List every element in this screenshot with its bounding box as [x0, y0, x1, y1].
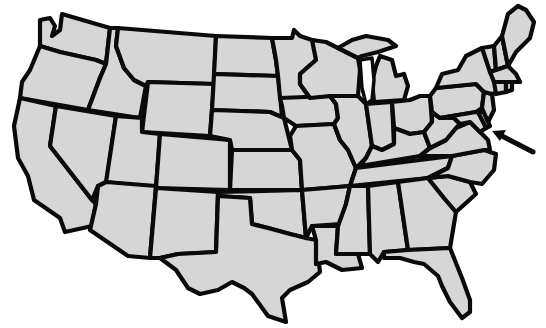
state-indiana — [366, 102, 394, 150]
state-colorado — [156, 134, 230, 190]
arrow-shaft — [500, 135, 533, 152]
state-iowa — [280, 96, 338, 126]
state-arizona — [90, 182, 156, 258]
state-montana — [116, 28, 216, 86]
state-massachusetts — [490, 66, 520, 82]
us-map-svg — [0, 0, 546, 328]
state-michigan-lower — [372, 56, 408, 102]
state-maine — [502, 6, 534, 66]
state-rhode-island — [506, 82, 512, 92]
state-new-jersey — [482, 92, 494, 122]
state-florida — [384, 248, 470, 318]
arrow-pointer — [492, 130, 533, 152]
lake-michigan — [360, 58, 374, 104]
state-kansas — [230, 150, 302, 190]
state-north-dakota — [214, 36, 278, 76]
us-map: United States outline map — [0, 0, 546, 328]
state-new-mexico — [150, 188, 218, 258]
state-wyoming — [142, 82, 214, 136]
